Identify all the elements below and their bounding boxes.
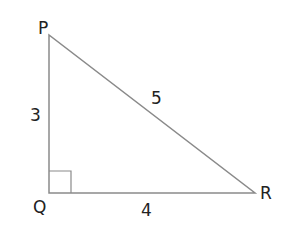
vertex-label-r: R [260,183,272,203]
triangle-pqr [49,35,255,193]
triangle-diagram: P Q R 3 4 5 [0,0,283,229]
side-label-pq: 3 [30,105,41,125]
side-label-qr: 4 [141,200,152,220]
side-label-pr: 5 [151,88,162,108]
right-angle-marker [49,171,71,193]
vertex-label-q: Q [33,197,46,217]
vertex-label-p: P [38,18,48,38]
